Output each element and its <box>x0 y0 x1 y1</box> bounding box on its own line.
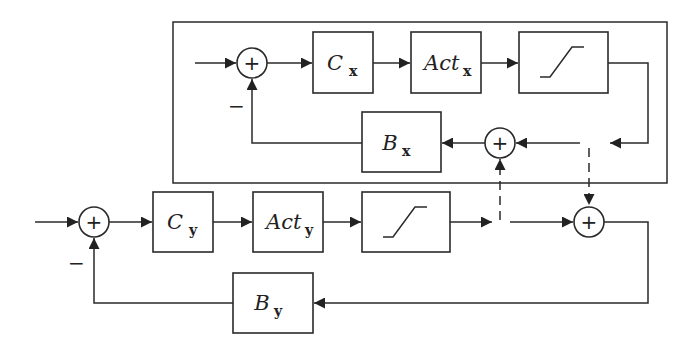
y-saturation-block <box>362 192 450 252</box>
svg-text:y: y <box>273 303 283 319</box>
svg-text:C: C <box>327 51 343 75</box>
by-block: B y <box>233 273 313 333</box>
cy-block: C y <box>153 192 213 252</box>
svg-text:x: x <box>463 63 472 79</box>
svg-text:y: y <box>304 222 314 238</box>
x-coupling-sum-junction: + <box>485 128 515 158</box>
svg-text:B: B <box>381 131 397 155</box>
cx-block: C x <box>313 32 373 93</box>
svg-text:B: B <box>253 291 269 315</box>
x-sum-junction: + <box>237 48 267 78</box>
bx-block: B x <box>362 112 441 172</box>
block-diagram: + C x Act x + <box>0 0 692 350</box>
svg-text:+: + <box>492 131 509 155</box>
svg-text:−: − <box>228 94 245 118</box>
svg-text:+: + <box>581 210 598 234</box>
actx-block: Act x <box>411 32 481 93</box>
svg-text:y: y <box>188 222 198 238</box>
svg-text:Act: Act <box>422 51 460 75</box>
svg-text:C: C <box>167 210 183 234</box>
svg-text:x: x <box>402 143 411 159</box>
svg-text:+: + <box>86 210 103 234</box>
svg-text:−: − <box>68 251 85 275</box>
y-loop: + C y Act y + B y − <box>35 192 648 333</box>
y-sum-junction: + <box>79 207 109 237</box>
acty-block: Act y <box>253 192 323 252</box>
x-loop: + C x Act x + <box>195 32 648 172</box>
svg-text:x: x <box>349 63 358 79</box>
y-coupling-sum-junction: + <box>574 207 604 237</box>
x-saturation-block <box>519 32 608 93</box>
svg-text:Act: Act <box>264 210 302 234</box>
svg-text:+: + <box>244 51 261 75</box>
